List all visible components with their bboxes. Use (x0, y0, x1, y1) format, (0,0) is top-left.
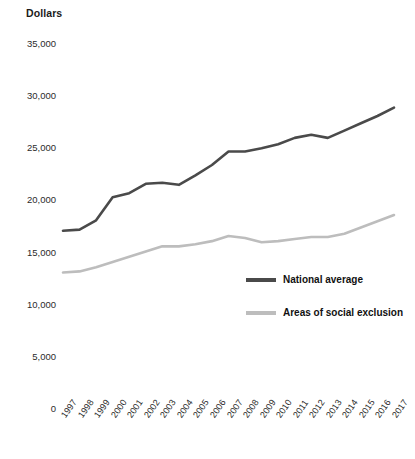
legend-label-areas-of-social-exclusion: Areas of social exclusion (283, 308, 403, 318)
line-chart: Dollars 05,00010,00015,00020,00025,00030… (0, 0, 415, 459)
legend-label-national-average: National average (283, 275, 363, 285)
plot-area (0, 0, 415, 459)
legend-item-areas-of-social-exclusion: Areas of social exclusion (246, 308, 403, 318)
series-line-national-average (63, 108, 394, 231)
legend-item-national-average: National average (246, 275, 363, 285)
series-line-areas-of-social-exclusion (63, 215, 394, 272)
legend-swatch-areas-of-social-exclusion (246, 311, 276, 315)
legend-swatch-national-average (246, 278, 276, 282)
